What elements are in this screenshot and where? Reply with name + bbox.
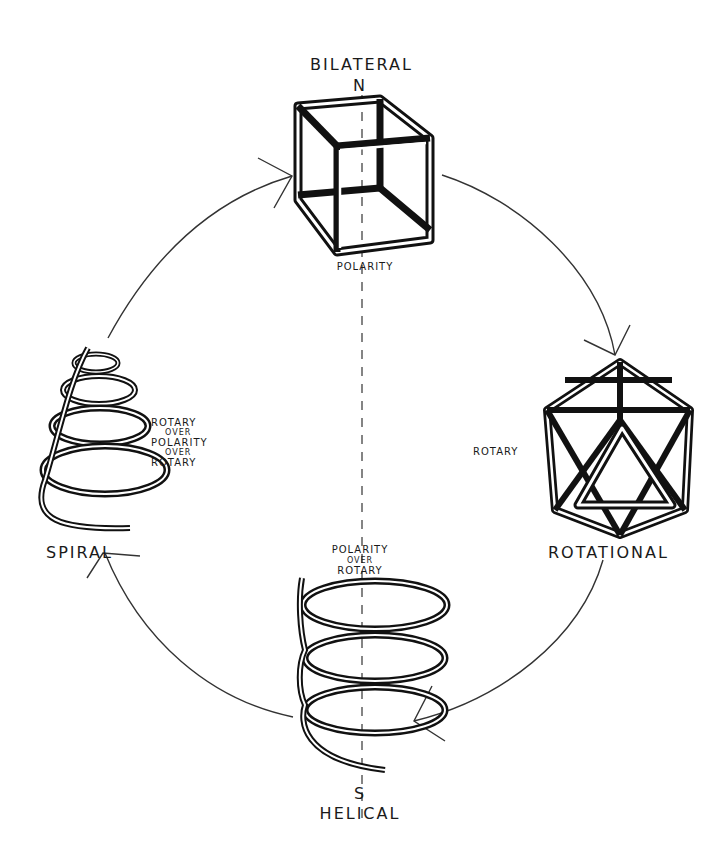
helix-shape [300,578,447,770]
label-helical-caption-2: OVER [310,557,410,565]
label-spiral-caption-5: ROTARY [151,458,196,468]
diagram-art [0,0,725,857]
diagram-canvas: BILATERAL N POLARITY ROTARY ROTATIONAL P… [0,0,725,857]
arrow-helical-to-spiral [105,553,293,717]
label-spiral: SPIRAL [46,545,113,561]
label-rotational: ROTATIONAL [548,545,669,561]
label-polarity: POLARITY [320,262,410,272]
arrow-bilateral-to-rotational [442,175,615,355]
label-rotary: ROTARY [473,447,518,457]
arrow-spiral-to-bilateral [108,176,292,338]
label-pole-south: S [340,786,380,802]
label-helical-caption-1: POLARITY [310,545,410,555]
spiral-shape [41,348,167,528]
label-spiral-caption-3: POLARITY [151,438,208,448]
cube-shape [298,99,430,252]
label-spiral-caption-1: ROTARY [151,418,196,428]
arrow-rotational-to-helical [414,560,603,721]
label-pole-north: N [340,78,380,94]
label-bilateral: BILATERAL [310,57,410,73]
label-spiral-caption-2: OVER [165,429,191,437]
label-spiral-caption-4: OVER [165,449,191,457]
label-helical: HELICAL [305,806,415,822]
label-helical-caption-3: ROTARY [310,566,410,576]
icosahedron-shape [547,362,690,535]
